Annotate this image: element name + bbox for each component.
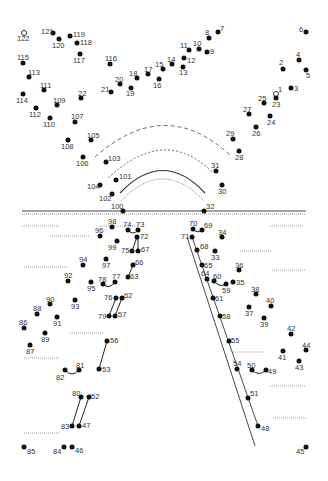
dot-label: 34 [218, 229, 226, 237]
dot-75 [130, 249, 135, 254]
dot-79 [107, 314, 112, 319]
dot-label: 11 [180, 42, 188, 50]
dot-label: 103 [108, 155, 121, 163]
dot-label: 94 [79, 256, 87, 264]
dot-label: 72 [140, 233, 148, 241]
dot-label: 119 [73, 31, 85, 39]
dot-label: 32 [206, 203, 214, 211]
dot-label: 85 [27, 448, 35, 456]
dot-label: 9 [210, 48, 214, 56]
dot-label: 97 [102, 262, 110, 270]
dot-label: 22 [78, 90, 86, 98]
dot-label: 62 [124, 292, 132, 300]
dot-84 [62, 445, 67, 450]
dot-label: 114 [16, 97, 28, 105]
guide-lines [0, 0, 328, 481]
dot-to-dot-canvas: 1234567891011121314151617181920212223242… [0, 0, 328, 481]
dot-label: 71 [181, 233, 189, 241]
dot-label: 51 [250, 390, 258, 398]
dot-label: 1 [278, 86, 282, 94]
ground-dotted-lines [22, 226, 306, 433]
dot-6 [304, 30, 309, 35]
dot-12 [182, 56, 187, 61]
dot-label: 44 [302, 342, 310, 350]
dot-47 [77, 424, 82, 429]
dot-label: 61 [215, 295, 223, 303]
dot-label: 50 [247, 362, 255, 370]
dot-56 [105, 339, 110, 344]
dot-label: 76 [104, 294, 112, 302]
dot-label: 41 [278, 354, 286, 362]
dot-label: 105 [87, 132, 100, 140]
dot-label: 101 [119, 173, 132, 181]
dot-label: 60 [213, 273, 221, 281]
dot-label: 5 [306, 72, 310, 80]
dot-label: 106 [76, 160, 89, 168]
dot-72 [135, 235, 140, 240]
dot-label: 8 [205, 29, 209, 37]
dot-label: 13 [179, 69, 187, 77]
dot-label: 3 [294, 85, 298, 93]
dot-68 [195, 248, 200, 253]
dot-label: 122 [17, 35, 30, 43]
dot-label: 31 [211, 162, 219, 170]
dot-label: 93 [71, 303, 79, 311]
dot-67 [136, 249, 141, 254]
dot-46 [70, 445, 75, 450]
dot-label: 79 [98, 313, 106, 321]
inner-arc [120, 171, 205, 194]
dot-48 [256, 424, 261, 429]
dot-53 [97, 367, 102, 372]
dot-83 [70, 424, 75, 429]
dot-9 [205, 50, 210, 55]
dot-label: 29 [226, 130, 234, 138]
dot-label: 70 [189, 220, 197, 228]
dot-label: 63 [130, 273, 138, 281]
dot-label: 66 [135, 259, 143, 267]
dot-label: 77 [112, 273, 120, 281]
dot-label: 15 [155, 61, 163, 69]
dot-label: 81 [76, 362, 84, 370]
dot-label: 14 [167, 56, 175, 64]
dot-label: 25 [258, 95, 266, 103]
outer-arc [95, 125, 230, 157]
dot-label: 48 [261, 425, 269, 433]
dot-label: 64 [201, 270, 209, 278]
dot-label: 84 [53, 448, 61, 456]
dot-label: 18 [129, 70, 137, 78]
dot-label: 87 [26, 348, 34, 356]
dot-label: 36 [235, 262, 243, 270]
dot-label: 42 [287, 325, 295, 333]
dot-label: 40 [266, 297, 274, 305]
dot-label: 82 [56, 374, 64, 382]
dot-label: 47 [82, 422, 90, 430]
dot-label: 110 [43, 121, 55, 129]
dot-label: 27 [243, 106, 251, 114]
dot-57 [113, 314, 118, 319]
dot-label: 21 [101, 86, 109, 94]
dot-label: 121 [41, 28, 54, 36]
dot-label: 20 [115, 76, 123, 84]
dot-label: 30 [218, 188, 226, 196]
dot-label: 83 [61, 423, 69, 431]
dot-85 [22, 445, 27, 450]
dot-label: 53 [102, 366, 110, 374]
road-line-left [187, 237, 255, 446]
dot-label: 99 [108, 244, 116, 252]
dot-label: 4 [296, 51, 300, 59]
dot-label: 7 [220, 25, 224, 33]
dot-label: 74 [123, 221, 131, 229]
dot-118 [75, 41, 80, 46]
dot-label: 33 [211, 254, 219, 262]
dot-label: 116 [105, 55, 117, 63]
dot-label: 26 [252, 130, 260, 138]
dot-label: 49 [268, 368, 276, 376]
dot-label: 55 [231, 337, 239, 345]
dot-label: 115 [17, 54, 29, 62]
dot-119 [68, 34, 73, 39]
dot-label: 109 [53, 97, 66, 105]
dot-label: 69 [204, 222, 212, 230]
dot-label: 96 [95, 227, 103, 235]
dot-label: 118 [80, 39, 92, 47]
dot-label: 38 [251, 286, 259, 294]
